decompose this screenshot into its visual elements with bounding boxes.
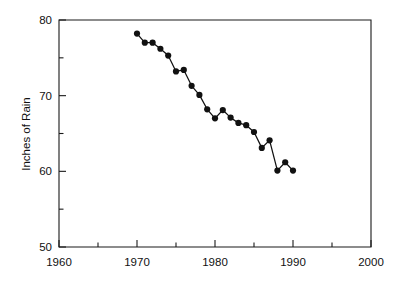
data-point-marker	[181, 67, 187, 73]
data-point-marker	[134, 31, 140, 37]
data-point-marker	[290, 167, 296, 173]
data-point-marker	[267, 137, 273, 143]
y-tick-label: 60	[39, 165, 52, 177]
y-axis-tick-labels: 50607080	[39, 14, 52, 253]
data-point-marker	[259, 145, 265, 151]
y-axis-title: Inches of Rain	[20, 97, 32, 171]
plot-frame	[59, 20, 371, 247]
data-point-marker	[173, 68, 179, 74]
x-tick-label: 1970	[124, 256, 150, 268]
rainfall-line-chart: 19601970198019902000 50607080 Inches of …	[0, 0, 400, 285]
data-point-marker	[228, 115, 234, 121]
x-tick-label: 2000	[358, 256, 384, 268]
data-point-marker	[212, 115, 218, 121]
x-tick-label: 1960	[46, 256, 72, 268]
y-tick-label: 50	[39, 241, 52, 253]
x-tick-label: 1990	[280, 256, 306, 268]
data-point-marker	[142, 40, 148, 46]
data-point-marker	[220, 107, 226, 113]
data-point-marker	[235, 120, 241, 126]
data-series-group	[134, 31, 296, 174]
data-point-marker	[251, 129, 257, 135]
data-point-marker	[196, 92, 202, 98]
data-point-marker	[165, 52, 171, 58]
data-point-marker	[274, 167, 280, 173]
y-tick-label: 70	[39, 90, 52, 102]
y-tick-label: 80	[39, 14, 52, 26]
data-point-marker	[282, 159, 288, 165]
x-axis-ticks	[59, 240, 371, 247]
data-point-marker	[189, 83, 195, 89]
y-axis-ticks	[59, 20, 66, 247]
data-point-marker	[157, 46, 163, 52]
data-point-marker	[204, 106, 210, 112]
chart-canvas: 19601970198019902000 50607080 Inches of …	[0, 0, 400, 285]
data-point-marker	[243, 122, 249, 128]
x-axis-tick-labels: 19601970198019902000	[46, 256, 384, 268]
series-line	[137, 34, 293, 171]
data-point-marker	[150, 40, 156, 46]
x-tick-label: 1980	[202, 256, 228, 268]
